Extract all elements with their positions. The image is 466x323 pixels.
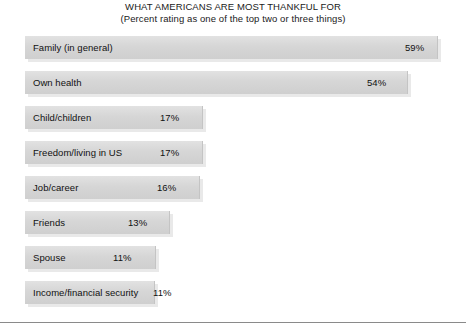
bar-value-label: 16% [157,176,176,199]
bar-value-label: 59% [405,36,424,59]
bar-category-label: Income/financial security [33,281,138,304]
bar-category-label: Family (in general) [33,36,113,59]
bar-value-label: 11% [153,281,171,304]
bar-value-label: 13% [128,211,147,234]
bar-value-label: 11% [113,246,131,269]
bar-category-label: Friends [33,211,65,234]
chart-title-block: WHAT AMERICANS ARE MOST THANKFUL FOR (Pe… [0,1,466,25]
bar-value-label: 17% [160,141,179,164]
bar-value-label: 54% [367,71,386,94]
chart-subtitle: (Percent rating as one of the top two or… [0,13,466,25]
bar-chart-plot-area: Family (in general) 59% Own health 54% C… [0,30,466,315]
bar-category-label: Spouse [33,246,66,269]
bar-category-label: Child/children [33,106,91,129]
bar-category-label: Job/career [33,176,78,199]
chart-title: WHAT AMERICANS ARE MOST THANKFUL FOR [0,1,466,13]
bar-track [25,71,408,94]
bar-category-label: Freedom/living in US [33,141,122,164]
chart-frame: WHAT AMERICANS ARE MOST THANKFUL FOR (Pe… [0,0,466,323]
bar-value-label: 17% [160,106,179,129]
bar-category-label: Own health [33,71,82,94]
